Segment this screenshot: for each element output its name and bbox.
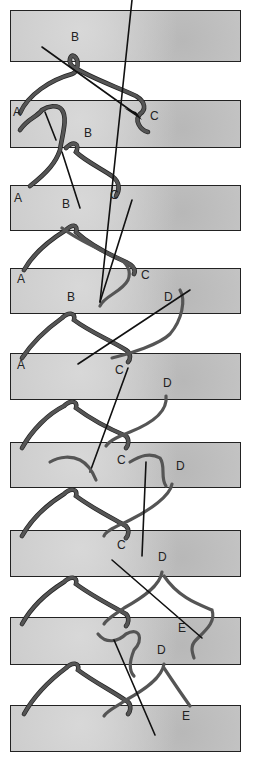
point-label-b: B xyxy=(62,198,70,210)
point-label-e: E xyxy=(178,622,186,634)
point-label-d: D xyxy=(157,644,166,656)
paper-strip-5 xyxy=(10,353,241,400)
stitch-diagram: BACBABCACBDACDCDCDEDE xyxy=(0,0,254,762)
point-label-b: B xyxy=(71,31,79,43)
point-label-c: C xyxy=(110,189,119,201)
point-label-c: C xyxy=(117,454,126,466)
point-label-d: D xyxy=(158,551,167,563)
point-label-b: B xyxy=(67,291,75,303)
point-label-a: A xyxy=(17,273,25,285)
paper-strip-3 xyxy=(10,185,241,231)
point-label-b: B xyxy=(84,127,92,139)
point-label-a: A xyxy=(17,359,25,371)
point-label-a: A xyxy=(14,192,22,204)
point-label-e: E xyxy=(182,710,190,722)
point-label-c: C xyxy=(141,269,150,281)
point-label-a: A xyxy=(13,106,21,118)
paper-strip-1 xyxy=(10,10,241,62)
paper-strip-9 xyxy=(10,705,241,752)
paper-strip-4 xyxy=(10,268,241,314)
point-label-d: D xyxy=(164,291,173,303)
point-label-c: C xyxy=(150,110,159,122)
point-label-c: C xyxy=(117,539,126,551)
paper-strip-2 xyxy=(10,100,241,148)
point-label-c: C xyxy=(115,364,124,376)
paper-strip-8 xyxy=(10,617,241,665)
point-label-d: D xyxy=(176,460,185,472)
point-label-d: D xyxy=(163,377,172,389)
